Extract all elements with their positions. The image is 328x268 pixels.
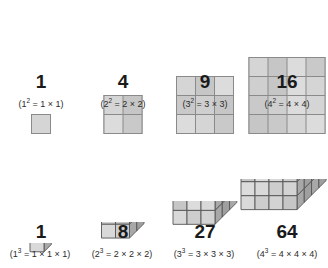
cube-face [283,182,297,196]
cube-formula-4: (43 = 4 × 4 × 4) [246,249,328,259]
square-group-4 [246,56,328,134]
square-value-3: 9 [164,72,246,91]
cube-formula-1: (13 = 1 × 1 × 1) [0,249,81,259]
cube-formula-1-suffix: = 1 × 1 × 1) [21,249,70,259]
cube-formula-3: (33 = 3 × 3 × 3) [163,249,245,259]
cube-formula-2: (23 = 2 × 2 × 2) [81,249,163,259]
cube-formula-labels: (13 = 1 × 1 × 1) (23 = 2 × 2 × 2) (33 = … [0,249,328,263]
cube-face [241,196,255,210]
square-group-1 [0,56,82,134]
square-formula-3: (32 = 3 × 3) [164,99,246,109]
square-cell [250,115,268,133]
square-cell [307,115,325,133]
square-value-4: 16 [246,72,328,91]
cube-face [173,201,187,210]
square-cell [196,115,214,133]
cube-face [222,201,229,217]
square-cell [269,115,287,133]
cube-formula-3-prefix: (3 [174,249,182,259]
cube-face [241,182,255,196]
cube-face [201,201,215,210]
square-grid-1 [31,114,51,134]
square-formula-labels: (12 = 1 × 1) (22 = 2 × 2) (32 = 3 × 3) (… [0,99,328,113]
cube-formula-1-prefix: (1 [10,249,18,259]
square-formula-1-suffix: = 1 × 1) [30,99,64,109]
cube-face [241,179,255,182]
square-formula-4-suffix: = 4 × 4) [276,99,310,109]
cube-face [283,196,297,210]
square-group-3 [164,56,246,134]
square-formula-3-suffix: = 3 × 3) [194,99,228,109]
square-formula-4: (42 = 4 × 4) [246,99,328,109]
cube-face [269,196,283,210]
cube-value-1: 1 [0,222,82,241]
cube-formula-2-suffix: = 2 × 2 × 2) [103,249,152,259]
square-value-1: 1 [0,72,82,91]
cube-value-3: 27 [164,222,246,241]
cube-face [187,201,201,210]
cube-formula-4-suffix: = 4 × 4 × 4) [268,249,317,259]
cube-face [255,182,269,196]
cube-face [255,179,269,182]
squares-and-cubes-figure: 1 4 9 16 (12 = 1 × 1) (22 = 2 × 2) (32 =… [0,0,328,268]
cube-face [311,179,318,195]
square-cell [177,115,195,133]
cube-face [230,201,237,210]
cube-formula-3-suffix: = 3 × 3 × 3) [185,249,234,259]
cube-face [283,179,297,182]
square-value-2: 4 [82,72,164,91]
cube-value-labels: 1 8 27 64 [0,222,328,244]
cube-formula-2-prefix: (2 [92,249,100,259]
cube-value-2: 8 [82,222,164,241]
square-cell [288,115,306,133]
square-value-labels: 1 4 9 16 [0,72,328,94]
cube-face [269,182,283,196]
cube-numbers-row: 1 8 27 64 (13 = 1 × 1 × 1) (23 = 2 × 2 ×… [0,134,328,268]
square-formula-2-suffix: = 2 × 2) [112,99,146,109]
cube-face [269,179,283,182]
cube-formula-4-prefix: (4 [257,249,265,259]
square-cell [32,115,50,133]
cube-face [319,179,326,188]
square-grid-4 [249,57,326,134]
square-cell [124,115,142,133]
cube-value-4: 64 [246,222,328,241]
square-numbers-row: 1 4 9 16 (12 = 1 × 1) (22 = 2 × 2) (32 =… [0,0,328,134]
square-formula-2: (22 = 2 × 2) [82,99,164,109]
square-formula-1: (12 = 1 × 1) [0,99,82,109]
cube-face [255,196,269,210]
square-cell [215,115,233,133]
square-cell [105,115,123,133]
square-group-2 [82,56,164,134]
